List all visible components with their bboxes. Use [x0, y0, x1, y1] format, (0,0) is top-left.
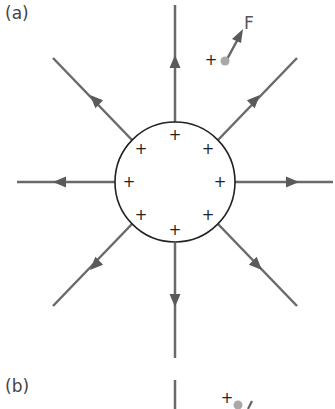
panel-b-test-charge-sign: + — [221, 391, 234, 406]
field-diagram: ++++++++ (a) (b) F + + — [0, 0, 335, 409]
test-charge-sign: + — [205, 53, 218, 68]
arrowhead-icon — [86, 257, 103, 274]
force-label: F — [244, 13, 254, 33]
surface-charge-plus: + — [135, 208, 148, 223]
test-charge-dot — [221, 57, 230, 66]
panel-b-label: (b) — [5, 376, 29, 396]
panel-b-test-charge-dot — [234, 401, 243, 409]
surface-charge-plus: + — [169, 223, 182, 238]
arrowhead-icon — [53, 177, 66, 188]
arrowhead-icon — [286, 177, 299, 188]
surface-charge-plus: + — [169, 128, 182, 143]
surface-charge-plus: + — [202, 142, 215, 157]
test-charge-a — [221, 29, 244, 66]
panel-b-content — [175, 380, 252, 409]
surface-charge-plus: + — [202, 208, 215, 223]
diagram-canvas — [0, 0, 335, 409]
surface-charge-plus: + — [214, 175, 227, 190]
arrowhead-icon — [170, 294, 181, 307]
arrowhead-icon — [170, 55, 181, 68]
surface-charge-plus: + — [123, 175, 136, 190]
force-arrowhead-icon — [232, 29, 243, 43]
panel-a-label: (a) — [5, 3, 29, 23]
panel-b-force-vector — [248, 401, 252, 409]
surface-charge-plus: + — [135, 142, 148, 157]
